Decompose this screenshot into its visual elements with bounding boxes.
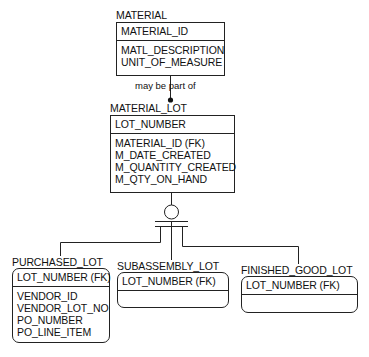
entity-purchased-lot[interactable]: LOT_NUMBER (FK) VENDOR_ID VENDOR_LOT_NO …	[12, 268, 110, 343]
entity-name-subassembly-lot: SUBASSEMBLY_LOT	[117, 260, 219, 272]
entity-name-purchased-lot: PURCHASED_LOT	[12, 256, 103, 268]
attributes: MATL_DESCRIPTION UNIT_OF_MEASURE	[117, 41, 224, 71]
entity-name-material-lot: MATERIAL_LOT	[110, 102, 187, 114]
primary-key: LOT_NUMBER (FK)	[118, 273, 228, 291]
category-circle-icon	[165, 205, 179, 219]
entity-finished-good-lot[interactable]: LOT_NUMBER (FK)	[241, 276, 358, 313]
primary-key: LOT_NUMBER (FK)	[242, 277, 357, 295]
entity-name-finished-good-lot: FINISHED_GOOD_LOT	[241, 264, 353, 276]
attribute: VENDOR_ID	[17, 290, 105, 302]
attribute: M_DATE_CREATED	[115, 149, 230, 161]
entity-material[interactable]: MATERIAL_ID MATL_DESCRIPTION UNIT_OF_MEA…	[116, 22, 225, 76]
attribute: VENDOR_LOT_NO	[17, 302, 105, 314]
attribute: MATERIAL_ID (FK)	[115, 137, 230, 149]
attributes	[118, 291, 228, 297]
attribute: PO_NUMBER	[17, 314, 105, 326]
entity-name-material: MATERIAL	[116, 9, 167, 21]
attribute: M_QTY_ON_HAND	[115, 173, 230, 185]
attribute: MATL_DESCRIPTION	[121, 44, 220, 56]
attributes: MATERIAL_ID (FK) M_DATE_CREATED M_QUANTI…	[111, 134, 234, 188]
attribute: PO_LINE_ITEM	[17, 326, 105, 338]
attributes	[242, 295, 357, 301]
attribute: UNIT_OF_MEASURE	[121, 56, 220, 68]
relationship-label: may be part of	[135, 80, 196, 91]
entity-subassembly-lot[interactable]: LOT_NUMBER (FK)	[117, 272, 229, 308]
primary-key: LOT_NUMBER	[111, 116, 234, 134]
attributes: VENDOR_ID VENDOR_LOT_NO PO_NUMBER PO_LIN…	[13, 287, 109, 341]
entity-material-lot[interactable]: LOT_NUMBER MATERIAL_ID (FK) M_DATE_CREAT…	[110, 115, 235, 193]
primary-key: MATERIAL_ID	[117, 23, 224, 41]
primary-key: LOT_NUMBER (FK)	[13, 269, 109, 287]
attribute: M_QUANTITY_CREATED	[115, 161, 230, 173]
